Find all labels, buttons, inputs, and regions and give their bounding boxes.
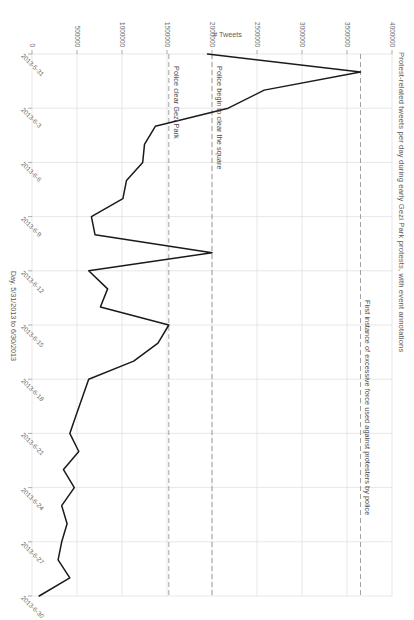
y-tick-label: 1500000	[164, 0, 171, 47]
chart-tick-marks	[28, 50, 392, 596]
annotation-label-first-force: First instance of excessive force used a…	[364, 300, 373, 515]
y-tick-label: 0	[29, 0, 36, 47]
y-tick-label: 4000000	[389, 0, 396, 47]
chart-title: Protest-related tweets per day during ea…	[397, 52, 406, 592]
y-tick-label: 2500000	[254, 0, 261, 47]
chart-x-axis-label: Day, 5/31/2013 to 6/30/2013	[9, 246, 18, 386]
y-tick-label: 2000000	[209, 0, 216, 47]
annotation-label-clear-square: Police begin to clear the square	[215, 66, 224, 170]
annotation-label-clear-park: Police clear Gezi Park	[172, 66, 181, 139]
y-tick-label: 3500000	[344, 0, 351, 47]
y-tick-label: 3000000	[299, 0, 306, 47]
y-tick-label: 1000000	[119, 0, 126, 47]
y-tick-label: 500000	[74, 0, 81, 47]
chart-y-axis-label: # Tweets	[168, 30, 288, 39]
